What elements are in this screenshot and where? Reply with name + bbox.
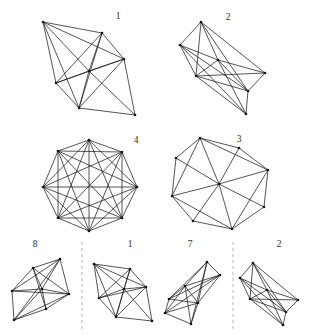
graph-vertex xyxy=(45,308,48,311)
graph-edge xyxy=(116,317,152,321)
graph-vertex xyxy=(249,298,252,301)
separators-layer xyxy=(82,242,233,330)
graph-edge xyxy=(180,22,201,45)
graph-edge xyxy=(89,152,122,231)
graph-edge xyxy=(58,151,122,152)
graph-edge xyxy=(246,91,248,114)
figure-container: 12438172 xyxy=(0,0,319,335)
graph-edge xyxy=(172,138,200,196)
graph-vertex xyxy=(245,113,248,116)
graph-vertex xyxy=(184,285,187,288)
graph-edge xyxy=(165,313,191,324)
graph-vertex xyxy=(197,302,200,305)
graph-edge xyxy=(146,287,152,321)
label-1-bottom-2: 1 xyxy=(128,239,133,249)
graph-edge xyxy=(165,303,198,313)
graph-edge xyxy=(165,275,220,313)
graph-edge xyxy=(79,108,135,115)
graph-edge xyxy=(250,299,298,300)
graph-vertex xyxy=(55,82,58,85)
graph-edge xyxy=(43,22,79,108)
graph-edge xyxy=(286,300,298,312)
graph-edge xyxy=(180,45,196,76)
graph-vertex xyxy=(199,137,202,140)
graph-edge xyxy=(42,259,60,289)
graph-vertex xyxy=(168,298,171,301)
graph-vertex xyxy=(121,217,124,220)
graph-1-top-left xyxy=(42,21,137,117)
graph-edge xyxy=(56,33,102,83)
label-3-mid-right: 3 xyxy=(237,134,242,144)
graph-edge xyxy=(56,71,89,83)
graph-edge xyxy=(172,196,232,229)
graph-vertex xyxy=(134,114,137,117)
graph-vertex xyxy=(285,311,288,314)
label-7-bottom-3: 7 xyxy=(188,239,193,249)
graph-edge xyxy=(232,207,264,229)
graph-vertex xyxy=(42,21,45,24)
graph-vertex xyxy=(57,150,60,153)
graph-edge xyxy=(172,196,193,221)
graph-vertex xyxy=(264,72,267,75)
graph-vertex xyxy=(231,228,234,231)
graph-vertex xyxy=(171,195,174,198)
graph-edge xyxy=(172,158,176,196)
graph-vertex xyxy=(11,290,14,293)
graph-vertex xyxy=(136,186,139,189)
graph-edge xyxy=(12,289,42,291)
graph-edge xyxy=(58,140,89,151)
graph-edge xyxy=(99,298,116,317)
graph-vertex xyxy=(88,139,91,142)
graph-edge xyxy=(253,263,267,290)
graph-vertex xyxy=(239,277,242,280)
graph-edge xyxy=(130,269,146,287)
graph-vertex xyxy=(267,169,270,172)
graph-vertex xyxy=(151,320,154,323)
graph-vertex xyxy=(297,299,300,302)
graph-vertex xyxy=(123,58,126,61)
graph-1-bottom-2 xyxy=(93,263,154,323)
graph-vertex xyxy=(93,263,96,266)
graph-edge xyxy=(46,294,69,309)
graph-vertex xyxy=(101,32,104,35)
graph-edge xyxy=(219,184,232,229)
graph-vertex xyxy=(282,324,285,327)
label-8-bottom-1: 8 xyxy=(33,239,38,249)
graph-vertex xyxy=(121,151,124,154)
graph-edge xyxy=(219,148,239,184)
graph-4-mid-left xyxy=(42,139,139,233)
graph-vertex xyxy=(42,186,45,189)
graph-edge xyxy=(200,138,219,184)
graph-vertex xyxy=(192,220,195,223)
label-1-top-left: 1 xyxy=(116,11,121,21)
graph-vertex xyxy=(78,107,81,110)
graph-edge xyxy=(124,59,135,115)
graph-edge xyxy=(33,259,60,268)
label-2-top-right: 2 xyxy=(226,12,231,22)
graph-2-bottom-4 xyxy=(239,262,300,327)
graph-edge xyxy=(239,148,268,170)
graph-figure-canvas: 12438172 xyxy=(0,0,319,335)
graph-vertex xyxy=(13,319,16,322)
graph-vertex xyxy=(195,75,198,78)
label-2-bottom-4: 2 xyxy=(277,239,282,249)
graph-vertex xyxy=(98,297,101,300)
graph-vertex xyxy=(115,316,118,319)
graph-vertex xyxy=(238,147,241,150)
graph-edge xyxy=(250,263,253,299)
graph-vertex xyxy=(217,59,220,62)
graph-edge xyxy=(176,138,200,158)
graph-edge xyxy=(89,71,135,115)
graph-edge xyxy=(200,138,268,170)
graph-2-top-right xyxy=(179,21,267,116)
graph-edge xyxy=(185,286,191,324)
graph-edge xyxy=(169,275,220,299)
graph-vertex xyxy=(68,293,71,296)
graph-vertex xyxy=(252,262,255,265)
graph-edge xyxy=(43,140,89,187)
graph-edge xyxy=(207,262,220,275)
graph-vertex xyxy=(57,217,60,220)
graph-vertex xyxy=(200,21,203,24)
graph-3-mid-right xyxy=(171,137,270,231)
graph-edge xyxy=(218,60,265,73)
